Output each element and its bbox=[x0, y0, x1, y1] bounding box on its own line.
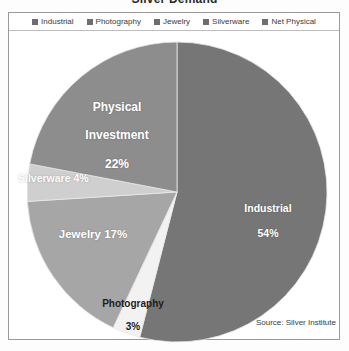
slice-label-text: Photography bbox=[102, 298, 164, 309]
slice-label-text: Physical bbox=[93, 100, 142, 114]
slice-label-silverware: Silverware 4% bbox=[10, 172, 150, 184]
slice-label-value: 54% bbox=[257, 227, 278, 239]
slice-label-text: Investment bbox=[85, 128, 148, 142]
slice-label-photography: Photography 3% bbox=[78, 286, 188, 333]
slice-label-industrial: Industrial 54% bbox=[218, 190, 318, 240]
slice-label-net-physical: Physical Investment 22% bbox=[52, 86, 182, 171]
slice-label-value: 3% bbox=[126, 321, 140, 332]
slice-label-jewelry: Jewelry 17% bbox=[28, 228, 158, 242]
slice-label-text: Industrial bbox=[244, 202, 291, 214]
slice-label-value: 22% bbox=[105, 157, 129, 171]
source-note: Source: Silver Institute bbox=[218, 318, 336, 327]
chart-root: Silver Demand Industrial Photography Jew… bbox=[0, 0, 349, 351]
